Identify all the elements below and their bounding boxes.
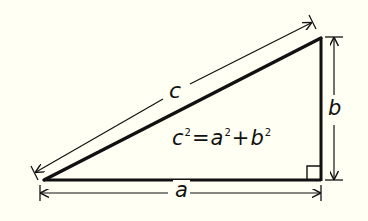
right-angle-icon (307, 166, 321, 180)
hypotenuse-side (44, 38, 321, 180)
equation-lhs-exponent: 2 (185, 127, 191, 138)
c-tick-end (309, 15, 316, 29)
equation-term1-exponent: 2 (224, 127, 230, 138)
triangle (44, 38, 321, 181)
horizontal-leg-label: a (173, 180, 190, 201)
equation-term1-var: a (211, 126, 224, 150)
equation-plus: + (232, 126, 250, 150)
vertical-leg-label: b (326, 98, 343, 119)
equation-equals: = (192, 126, 210, 150)
equation-term2-var: b (250, 126, 263, 150)
equation-lhs-var: c (172, 126, 184, 150)
c-arrow-lower (36, 99, 163, 172)
equation-term2-exponent: 2 (265, 127, 271, 138)
c-tick-start (31, 166, 38, 180)
hypotenuse-label: c (167, 80, 183, 102)
pythagorean-diagram: c b a c2=a2+b2 (0, 0, 368, 221)
pythagorean-equation: c2=a2+b2 (172, 126, 271, 150)
